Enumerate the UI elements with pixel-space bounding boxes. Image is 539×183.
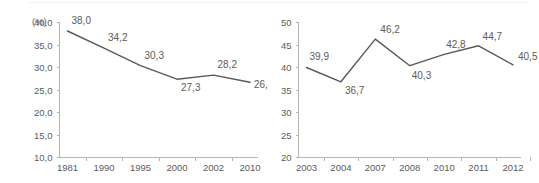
line-chart-left: 40,035,030,025,020,015,010,0 19811990199… xyxy=(0,0,268,183)
left-y-tick-label: 25,0 xyxy=(34,85,53,96)
right-x-tick-label: 2011 xyxy=(468,162,488,173)
right-x-tick-label: 2008 xyxy=(399,162,420,173)
right-y-tick-label: 25 xyxy=(281,130,292,141)
left-value-label: 38,0 xyxy=(72,15,92,26)
left-x-tick-label: 1990 xyxy=(93,162,114,173)
left-value-label: 26,6 xyxy=(254,79,268,90)
right-y-tick-label: 40 xyxy=(281,62,292,73)
right-series-line xyxy=(307,39,514,82)
left-axes xyxy=(60,22,259,158)
right-x-tick-label: 2003 xyxy=(296,162,317,173)
left-y-tick-label: 30,0 xyxy=(34,62,53,73)
right-x-tick-label: 2007 xyxy=(365,162,386,173)
left-y-tick-label: 15,0 xyxy=(34,130,53,141)
left-y-tick-label: 35,0 xyxy=(34,40,53,51)
right-x-tick-label: 2012 xyxy=(502,162,523,173)
right-value-label: 40,5 xyxy=(518,51,538,62)
left-x-tick-label: 2000 xyxy=(166,162,187,173)
left-value-label: 27,3 xyxy=(181,82,201,93)
left-value-label: 34,2 xyxy=(108,32,128,43)
right-y-tick-label: 50 xyxy=(281,17,292,28)
left-y-tick-labels: 40,035,030,025,020,015,010,0 xyxy=(34,17,53,163)
right-value-label: 36,7 xyxy=(345,85,365,96)
right-chart-svg: 50454035302520 2003200420072008201020112… xyxy=(268,0,539,183)
right-y-tick-label: 20 xyxy=(281,152,292,163)
line-chart-right: 50454035302520 2003200420072008201020112… xyxy=(268,0,539,183)
left-x-tick-labels: 198119901995200020022010 xyxy=(57,162,261,173)
right-y-tick-label: 30 xyxy=(281,107,292,118)
right-value-label: 39,9 xyxy=(310,51,330,62)
figure-container: 40,035,030,025,020,015,010,0 19811990199… xyxy=(0,0,539,183)
right-x-tick-labels: 2003200420072008201020112012 xyxy=(296,162,524,173)
right-value-label: 42,8 xyxy=(446,39,466,50)
right-y-tick-label: 45 xyxy=(281,40,292,51)
right-axes xyxy=(299,22,522,158)
left-y-tick-label: 10,0 xyxy=(34,152,53,163)
right-value-label: 40,3 xyxy=(412,70,432,81)
right-y-tick-label: 35 xyxy=(281,85,292,96)
left-x-tick-label: 2002 xyxy=(203,162,224,173)
left-value-label: 28,2 xyxy=(218,59,238,70)
left-value-labels: 38,034,230,327,328,226,6 xyxy=(72,15,269,93)
left-value-label: 30,3 xyxy=(145,50,165,61)
left-x-tick-label: 1981 xyxy=(57,162,78,173)
left-chart-svg: 40,035,030,025,020,015,010,0 19811990199… xyxy=(0,0,268,183)
right-value-label: 46,2 xyxy=(380,24,400,35)
right-y-tick-labels: 50454035302520 xyxy=(281,17,292,163)
left-unit-label: (%) xyxy=(32,16,47,27)
right-x-tick-label: 2004 xyxy=(330,162,351,173)
right-value-label: 44,7 xyxy=(483,31,503,42)
right-x-tick-label: 2010 xyxy=(434,162,455,173)
left-x-tick-label: 2010 xyxy=(239,162,260,173)
left-x-tick-label: 1995 xyxy=(130,162,151,173)
left-y-tick-label: 20,0 xyxy=(34,107,53,118)
